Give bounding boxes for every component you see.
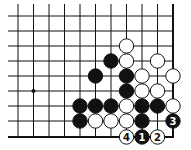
- move-number: 2: [154, 132, 161, 143]
- black-stone: [150, 99, 164, 113]
- black-stone: [88, 69, 102, 83]
- white-stone: [166, 69, 180, 83]
- numbered-white-stone-4: 4: [119, 130, 133, 144]
- white-stone: [88, 114, 102, 128]
- white-stone: [150, 54, 164, 68]
- black-stone: [104, 99, 118, 113]
- numbered-black-stone-3: 3: [166, 114, 180, 128]
- black-stone: [119, 69, 133, 83]
- black-stone: [73, 114, 87, 128]
- white-stone: [150, 84, 164, 98]
- black-stone: [88, 99, 102, 113]
- white-stone: [119, 114, 133, 128]
- numbered-white-stone-2: 2: [150, 130, 164, 144]
- white-stone: [135, 69, 149, 83]
- white-stone: [135, 84, 149, 98]
- black-stone: [135, 99, 149, 113]
- black-stone: [73, 99, 87, 113]
- star-points: [32, 89, 36, 93]
- white-stone: [119, 39, 133, 53]
- white-stone: [104, 114, 118, 128]
- white-stone: [166, 99, 180, 113]
- black-stone: [135, 114, 149, 128]
- white-stone: [119, 99, 133, 113]
- numbered-black-stone-1: 1: [135, 130, 149, 144]
- go-board: 3412: [0, 0, 191, 150]
- star-point: [32, 89, 36, 93]
- white-stone: [119, 54, 133, 68]
- move-number: 1: [139, 132, 146, 143]
- black-stone: [119, 84, 133, 98]
- move-number: 3: [170, 116, 177, 127]
- move-number: 4: [123, 132, 130, 143]
- black-stone: [104, 54, 118, 68]
